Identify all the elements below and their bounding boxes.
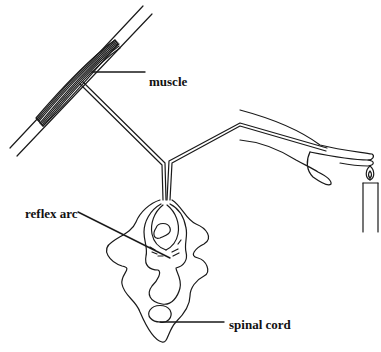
motor-nerve (80, 82, 166, 200)
hand-icon (240, 110, 373, 185)
muscle-icon (36, 40, 120, 126)
diagram-drawing (0, 0, 381, 352)
muscle-label: muscle (149, 75, 187, 88)
candle-icon (363, 166, 378, 232)
reflex-arc-diagram: muscle reflex arc spinal cord (0, 0, 381, 352)
spinal-cord-outline (107, 200, 209, 342)
reflex-arc-leader-line (78, 212, 170, 258)
spinal-cord-label: spinal cord (229, 318, 291, 331)
reflex-arc-label: reflex arc (25, 207, 78, 220)
grey-matter (144, 204, 187, 322)
